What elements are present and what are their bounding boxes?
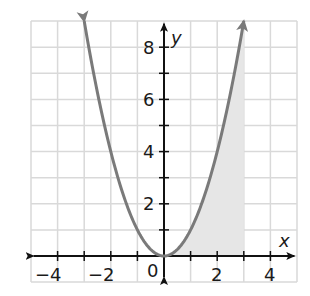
y-tick-label: 6 [143, 89, 154, 110]
y-tick-label: 4 [143, 141, 154, 162]
x-tick-label: −4 [35, 264, 62, 285]
x-tick-label: 2 [211, 264, 222, 285]
axes [34, 24, 295, 277]
y-tick-label: 8 [143, 37, 154, 58]
parabola-graph: x y 0 −4 −2 2 4 2 4 6 8 [0, 0, 310, 296]
shaded-region [164, 21, 244, 256]
y-tick-label: 2 [143, 193, 154, 214]
x-tick-label: 4 [264, 264, 275, 285]
origin-label: 0 [147, 260, 158, 281]
x-tick-label: −2 [88, 264, 115, 285]
x-axis-label: x [278, 230, 290, 251]
y-axis-label: y [170, 27, 182, 48]
